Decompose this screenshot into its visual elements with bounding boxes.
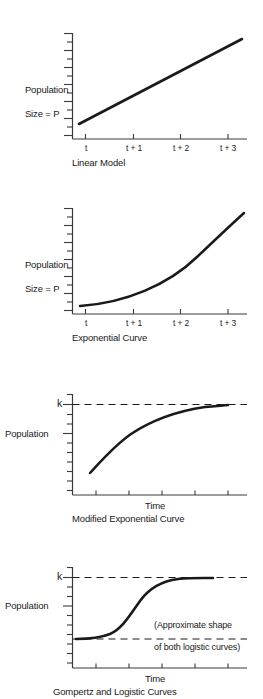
linear-growth-line: [79, 39, 242, 124]
logistic-shape-annotation: (Approximate shape of both logistic curv…: [140, 609, 240, 664]
x-tick-label-1: t + 1: [116, 318, 152, 328]
annotation-line2: of both logistic curves): [154, 642, 240, 652]
x-axis-label-time: Time: [125, 673, 185, 684]
modified-exponential-growth-curve: [90, 405, 228, 473]
x-tick-label-3: t + 3: [210, 143, 246, 153]
x-tick-label-1: t + 1: [116, 143, 152, 153]
x-tick-marks: [86, 309, 229, 314]
panel-caption: Linear Model: [72, 157, 125, 168]
asymptote-label-k: k: [40, 570, 62, 582]
x-tick-marks: [86, 134, 229, 139]
y-axis-label-population: Population: [5, 428, 48, 440]
x-tick-marks: [96, 491, 228, 496]
population-growth-figure: Population Size = P t t + 1 t + 2 t + 3 …: [0, 0, 263, 699]
panel-gompertz-and-logistic-curves: k Population (Approximate shape of both …: [0, 525, 263, 699]
x-tick-label-2: t + 2: [163, 318, 199, 328]
annotation-line1: (Approximate shape: [154, 620, 232, 630]
y-axis-label-line2: Size = P: [25, 108, 59, 119]
x-axis-label-time: Time: [125, 500, 185, 511]
y-axis-label-line2: Size = P: [25, 283, 59, 294]
exponential-growth-curve: [80, 213, 244, 306]
y-axis-label-line1: Population: [25, 259, 68, 270]
x-tick-label-0: t: [76, 318, 96, 328]
panel-caption: Modified Exponential Curve: [72, 513, 184, 524]
panel-caption: Gompertz and Logistic Curves: [53, 686, 177, 697]
asymptote-label-k: k: [40, 397, 62, 409]
panel-exponential-curve: Population Size = P t t + 1 t + 2 t + 3 …: [0, 175, 263, 350]
y-tick-marks: [63, 395, 73, 491]
x-tick-label-3: t + 3: [210, 318, 246, 328]
panel-linear-model: Population Size = P t t + 1 t + 2 t + 3 …: [0, 0, 263, 175]
x-tick-marks: [96, 664, 228, 669]
x-tick-label-0: t: [76, 143, 96, 153]
y-tick-marks: [63, 568, 73, 664]
panel-caption: Exponential Curve: [72, 332, 147, 343]
y-axis-label-population: Population Size = P: [10, 72, 68, 132]
panel-modified-exponential-curve: k Population Time Modified Exponential C…: [0, 350, 263, 525]
x-tick-label-2: t + 2: [163, 143, 199, 153]
y-axis-label-population: Population: [5, 600, 48, 612]
y-axis-label-line1: Population: [25, 84, 68, 95]
y-axis-label-population: Population Size = P: [10, 247, 68, 307]
